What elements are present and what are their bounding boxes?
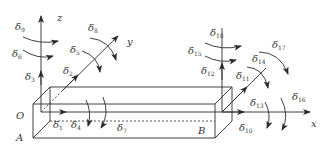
delta18-arc <box>205 43 241 48</box>
y-axis-label: y <box>126 36 133 47</box>
label-delta7: δ7 <box>117 122 127 134</box>
label-delta17: δ17 <box>272 39 286 51</box>
delta14-arc <box>247 67 268 88</box>
label-delta5: δ5 <box>70 44 80 56</box>
delta6-arc <box>23 50 53 57</box>
left-node-axes <box>41 16 222 112</box>
label-delta14: δ14 <box>252 53 266 65</box>
dof-labels: δ1 δ2 δ3 δ4 δ5 δ6 δ7 δ8 δ9 δ10 δ11 δ12 δ… <box>12 21 306 134</box>
point-label-B: B <box>197 125 205 136</box>
label-delta9: δ9 <box>15 21 25 33</box>
x-axis-label: x <box>311 118 317 129</box>
label-delta16: δ16 <box>292 91 306 103</box>
label-delta11: δ11 <box>236 70 250 82</box>
label-delta6: δ6 <box>12 48 22 60</box>
label-delta15: δ15 <box>188 45 202 57</box>
delta9-arc <box>23 37 58 42</box>
label-delta10: δ10 <box>239 122 253 134</box>
z-axis-label: z <box>56 12 63 23</box>
delta16-arc <box>281 98 286 130</box>
label-delta13: δ13 <box>250 97 264 109</box>
label-delta12: δ12 <box>201 65 215 77</box>
beam-dof-diagram: z y x O A B δ1 δ2 δ3 δ4 δ5 δ6 δ7 δ8 δ9 δ… <box>0 0 325 149</box>
label-delta2: δ2 <box>63 65 73 77</box>
delta7-arc <box>101 97 106 128</box>
label-delta3: δ3 <box>25 71 35 83</box>
delta11-arrow <box>222 87 247 112</box>
delta13-arc <box>265 102 269 128</box>
point-label-A: A <box>15 132 23 143</box>
delta15-arc <box>205 56 236 61</box>
right-rotation-arcs <box>205 43 288 130</box>
label-delta8: δ8 <box>88 22 98 34</box>
label-delta1: δ1 <box>53 119 63 131</box>
origin-label-O: O <box>16 110 24 121</box>
